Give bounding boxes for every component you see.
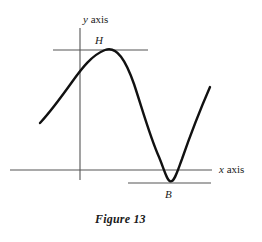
figure-13-container: y axis x axis H B Figure 13 <box>0 0 262 242</box>
plotted-curve <box>40 49 210 181</box>
x-axis-label: x axis <box>219 164 244 175</box>
low-point-label: B <box>165 189 172 200</box>
high-point-label: H <box>95 35 103 46</box>
figure-caption: Figure 13 <box>95 213 146 225</box>
y-axis-label: y axis <box>83 14 108 25</box>
y-axis-word: axis <box>88 13 108 25</box>
x-axis-word: axis <box>224 163 244 175</box>
figure-graph-svg <box>0 0 262 242</box>
